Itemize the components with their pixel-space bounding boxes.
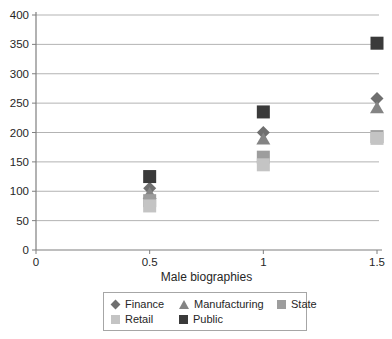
y-tick-label: 250 (10, 97, 29, 109)
y-tick-label: 300 (10, 68, 29, 80)
legend-box: FinanceManufacturingStateRetailPublic (103, 292, 307, 331)
plot-area: 05010015020025030035040000.511.5 (0, 0, 392, 268)
legend-row: FinanceManufacturingState (111, 298, 299, 310)
point-public (371, 37, 384, 50)
legend-label: Manufacturing (194, 298, 264, 310)
legend-row: RetailPublic (111, 313, 299, 325)
point-retail (257, 158, 270, 171)
y-tick-label: 200 (10, 127, 29, 139)
triangle-marker-icon (179, 300, 189, 309)
point-retail (371, 132, 384, 145)
legend-label: Finance (125, 298, 164, 310)
x-tick-label: 0 (33, 256, 39, 268)
y-tick-label: 50 (16, 215, 29, 227)
legend-item-state: State (277, 298, 317, 310)
point-retail (143, 199, 156, 212)
square-marker-icon (277, 300, 286, 309)
y-tick-label: 0 (23, 244, 29, 256)
square-marker-icon (111, 315, 120, 324)
square-marker-icon (179, 315, 188, 324)
point-public (257, 105, 270, 118)
y-tick-label: 100 (10, 185, 29, 197)
y-tick-label: 150 (10, 156, 29, 168)
legend-label: State (291, 298, 317, 310)
legend-label: Public (193, 313, 223, 325)
x-axis-title: Male biographies (36, 270, 377, 284)
point-manufacturing (256, 132, 270, 144)
y-tick-label: 350 (10, 38, 29, 50)
legend-item-public: Public (179, 313, 277, 325)
point-public (143, 170, 156, 183)
legend-item-finance: Finance (111, 298, 179, 310)
legend-item-retail: Retail (111, 313, 179, 325)
x-tick-label: 0.5 (142, 256, 158, 268)
x-tick-label: 1.5 (369, 256, 385, 268)
scatter-chart-figure: 05010015020025030035040000.511.5 Male bi… (0, 0, 392, 339)
diamond-marker-icon (111, 299, 121, 309)
y-tick-label: 400 (10, 9, 29, 21)
legend-label: Retail (125, 313, 153, 325)
legend-item-manufacturing: Manufacturing (179, 298, 277, 310)
x-tick-label: 1 (260, 256, 266, 268)
